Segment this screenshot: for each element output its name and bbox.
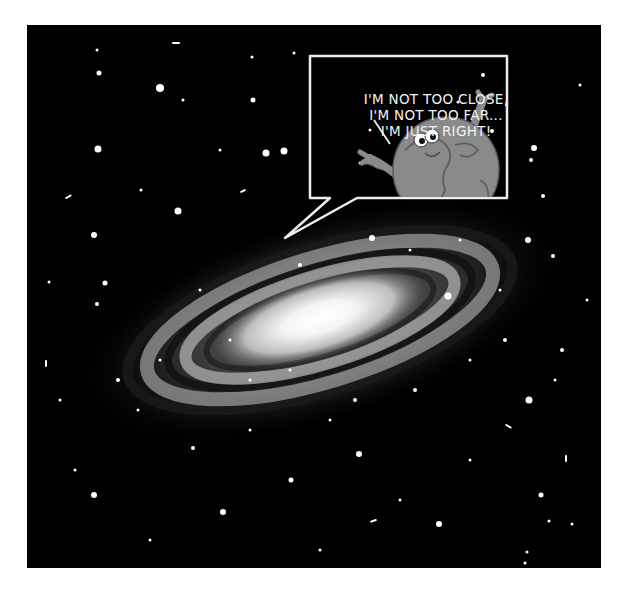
comic-panel: I'M NOT TOO CLOSE, I'M NOT TOO FAR... I'… bbox=[27, 25, 601, 568]
caption-line-2: I'M NOT TOO FAR... bbox=[345, 107, 527, 123]
caption-line-1: I'M NOT TOO CLOSE, bbox=[345, 91, 527, 107]
speech-bubble-text: I'M NOT TOO CLOSE, I'M NOT TOO FAR... I'… bbox=[345, 91, 527, 139]
caption-line-3: I'M JUST RIGHT! bbox=[345, 123, 527, 139]
